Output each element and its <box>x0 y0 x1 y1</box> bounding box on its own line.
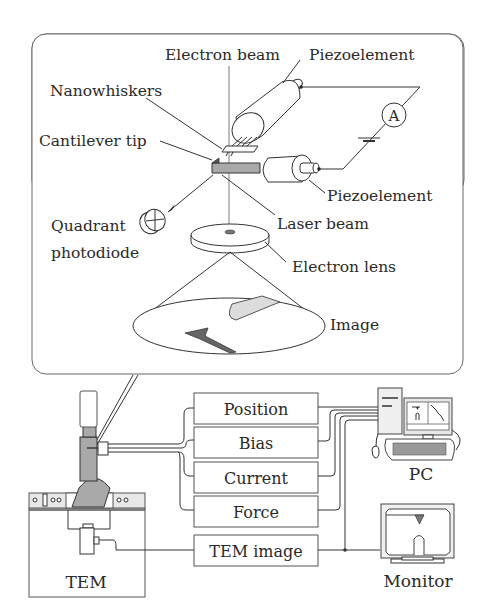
label-piezoelement-top: Piezoelement <box>309 46 415 64</box>
label-tem: TEM <box>65 572 106 592</box>
label-laser-beam: Laser beam <box>277 215 369 233</box>
signal-box-current: Current <box>194 462 318 493</box>
electron-lens-icon <box>191 224 269 253</box>
label-monitor: Monitor <box>383 571 453 591</box>
label-quadrant: Quadrant <box>51 217 126 235</box>
label-cantilever-tip: Cantilever tip <box>39 132 147 150</box>
signal-box-force: Force <box>194 496 318 527</box>
label-image: Image <box>330 316 379 334</box>
signal-wires-right <box>318 407 380 552</box>
monitor-icon <box>381 504 454 563</box>
ammeter-label: A <box>388 107 400 125</box>
signal-box-bias: Bias <box>194 427 318 458</box>
mouse-icon <box>372 446 379 458</box>
label-nanowhiskers: Nanowhiskers <box>50 82 162 100</box>
label-electron-beam: Electron beam <box>165 46 280 64</box>
tem-afm-setup-diagram: A Electron beam Piezoelement <box>0 0 488 616</box>
signal-box-tem-image: TEM image <box>194 535 318 566</box>
signal-box-label: Force <box>233 503 279 522</box>
label-electron-lens: Electron lens <box>292 258 396 276</box>
signal-box-label: Bias <box>239 434 274 453</box>
callout-line <box>95 375 138 448</box>
signal-box-position: Position <box>194 393 318 424</box>
label-piezoelement-bottom: Piezoelement <box>327 187 433 205</box>
label-photodiode: photodiode <box>51 244 139 262</box>
signal-box-label: Position <box>224 400 289 419</box>
signal-box-label: Current <box>224 469 289 488</box>
label-pc: PC <box>409 464 433 484</box>
image-plane <box>133 298 325 354</box>
signal-box-label: TEM image <box>209 542 302 561</box>
tem-icon <box>29 391 145 597</box>
pc-icon <box>372 388 460 460</box>
